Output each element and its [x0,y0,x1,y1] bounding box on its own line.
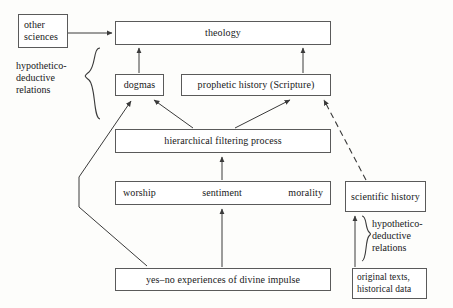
worship-row-inner: worship sentiment morality [116,182,330,204]
diagram-canvas: other sciences theology dogmas prophetic… [0,0,453,308]
node-other-sciences-label: other sciences [19,19,67,43]
node-hierarchical-filtering-process-label: hierarchical filtering process [116,135,330,147]
brace-right-hypothetico-deductive [362,216,371,261]
node-prophetic-history[interactable]: prophetic history (Scripture) [181,74,331,96]
node-dogmas-label: dogmas [116,79,163,91]
node-worship-label: worship [123,187,156,199]
edge-hierarchical-to-prophetic-history [235,100,290,128]
node-yes-no-experiences[interactable]: yes–no experiences of divine impulse [115,268,331,291]
edge-hierarchical-to-dogmas [154,100,193,128]
node-scientific-history-label: scientific history [346,191,425,203]
node-other-sciences[interactable]: other sciences [18,14,68,48]
node-prophetic-history-label: prophetic history (Scripture) [182,79,330,91]
node-scientific-history[interactable]: scientific history [345,181,426,212]
node-worship-sentiment-morality[interactable]: worship sentiment morality [115,181,331,205]
node-sentiment-label: sentiment [202,187,242,199]
node-original-texts[interactable]: original texts, historical data [352,268,427,299]
node-hierarchical-filtering-process[interactable]: hierarchical filtering process [115,129,331,153]
node-yes-no-experiences-label: yes–no experiences of divine impulse [116,274,330,286]
node-theology[interactable]: theology [115,21,331,45]
node-original-texts-label: original texts, historical data [353,272,426,294]
annotation-hypothetico-deductive-right: hypothetico- deductive relations [372,218,450,253]
node-theology-label: theology [116,27,330,39]
node-dogmas[interactable]: dogmas [115,74,164,96]
annotation-hypothetico-deductive-left: hypothetico- deductive relations [16,60,96,95]
node-morality-label: morality [288,187,323,199]
